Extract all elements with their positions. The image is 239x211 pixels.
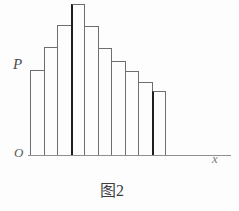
origin-label: O [14,146,23,159]
x-axis-label: x [212,152,218,165]
histogram-bar [98,48,112,156]
histogram-bar [125,71,139,156]
figure-2-histogram: P O x 图2 [0,0,239,211]
histogram-bar [84,26,99,156]
histogram-bar [138,82,153,156]
histogram-bar [111,61,126,156]
histogram-bar [30,70,45,156]
y-axis-label: P [13,57,22,72]
histogram-bar [152,91,166,156]
histogram-bar [57,25,72,156]
figure-caption: 图2 [84,177,140,201]
histogram-bar [71,4,85,156]
histogram-bar [44,47,58,156]
x-axis-line [28,155,231,156]
